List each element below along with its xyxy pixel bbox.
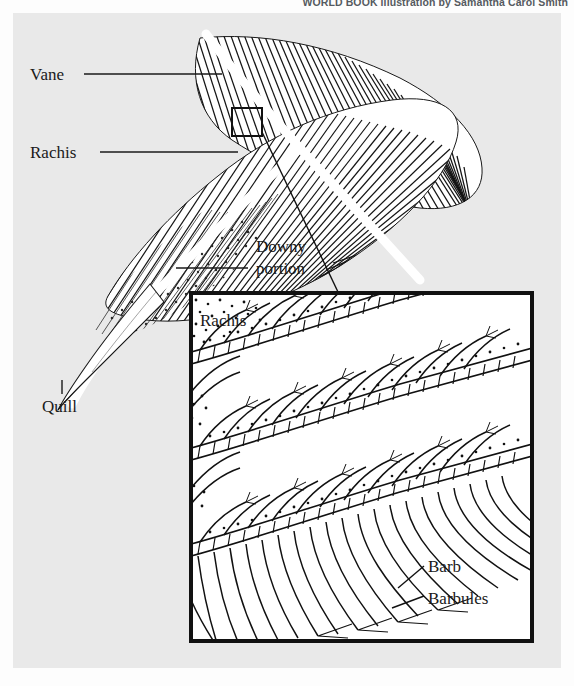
label-vane: Vane (30, 65, 64, 84)
feather-illustration: Vane Rachis Downy portion Quill (0, 0, 574, 686)
label-downy-line2: portion (256, 259, 306, 278)
feather-diagram-page: WORLD BOOK illustration by Samantha Caro… (0, 0, 574, 686)
inset-label-barb: Barb (428, 557, 461, 576)
inset-label-barbules: Barbules (428, 589, 488, 608)
inset-label-rachis: Rachis (200, 311, 246, 330)
inset-detail-box: Rachis Barb Barbules (191, 230, 574, 648)
label-rachis: Rachis (30, 143, 76, 162)
label-quill: Quill (42, 397, 77, 416)
label-downy-line1: Downy (256, 237, 307, 256)
